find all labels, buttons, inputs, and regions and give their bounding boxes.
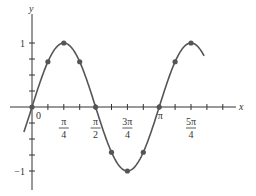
x-tick-label-denominator: 4 xyxy=(61,129,66,140)
y-tick-label: 1 xyxy=(20,38,25,49)
chart-container: xy 0π4π23π4π5π41−1 xyxy=(0,0,256,196)
x-tick-label-numerator: π xyxy=(61,116,66,127)
y-axis-label: y xyxy=(28,3,34,14)
x-tick-label-denominator: 4 xyxy=(189,129,194,140)
data-point xyxy=(93,104,98,109)
y-tick-label: −1 xyxy=(14,166,25,177)
data-point xyxy=(109,150,114,155)
data-point xyxy=(45,59,50,64)
data-point xyxy=(173,59,178,64)
data-point xyxy=(61,40,66,45)
x-tick-label: π xyxy=(158,110,163,121)
data-point xyxy=(77,59,82,64)
data-point xyxy=(125,168,130,173)
sine-plot: xy 0π4π23π4π5π41−1 xyxy=(0,0,256,196)
data-point xyxy=(188,40,193,45)
x-tick-label: 0 xyxy=(36,110,41,121)
x-tick-label-denominator: 2 xyxy=(93,129,98,140)
x-tick-label-numerator: 5π xyxy=(186,116,196,127)
x-tick-label-numerator: 3π xyxy=(122,116,132,127)
axes: xy xyxy=(10,3,244,190)
x-tick-label-numerator: π xyxy=(93,116,98,127)
data-point xyxy=(157,104,162,109)
x-axis-label: x xyxy=(238,101,244,112)
data-point xyxy=(141,150,146,155)
data-point xyxy=(29,104,34,109)
x-tick-label-denominator: 4 xyxy=(125,129,130,140)
